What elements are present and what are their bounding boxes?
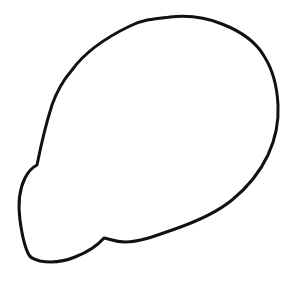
drawing-canvas: [0, 0, 295, 283]
background: [0, 0, 295, 283]
